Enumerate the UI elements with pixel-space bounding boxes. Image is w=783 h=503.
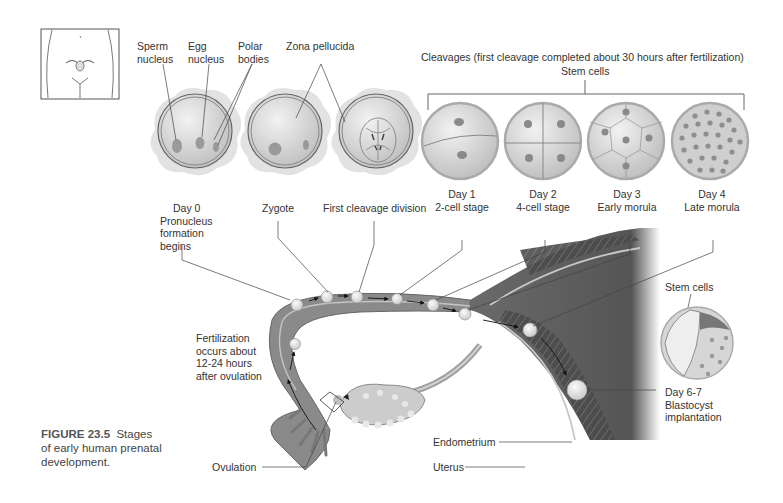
label-zona-pellucida: Zona pellucida — [286, 40, 354, 53]
cell-day2-4cell — [505, 103, 581, 179]
cell-first-cleavage — [331, 88, 422, 175]
cell-zygote — [240, 88, 331, 175]
label-day4: Day 4 Late morula — [677, 188, 747, 213]
label-day1: Day 1 2-cell stage — [430, 188, 494, 213]
figure-caption: FIGURE 23.5 Stages of early human prenat… — [41, 427, 162, 469]
label-egg-nucleus: Egg nucleus — [188, 40, 224, 65]
label-first-cleavage: First cleavage division — [323, 202, 426, 215]
label-day0: Day 0 Pronucleus formation begins — [160, 202, 213, 252]
cell-day1-2cell — [422, 103, 498, 179]
label-stem-cells-blastocyst: Stem cells — [665, 281, 713, 294]
label-sperm-nucleus: Sperm nucleus — [137, 40, 173, 65]
label-blastocyst: Day 6-7 Blastocyst implantation — [665, 386, 722, 424]
label-day3: Day 3 Early morula — [592, 188, 662, 213]
ovary — [320, 384, 425, 428]
label-day2: Day 2 4-cell stage — [511, 188, 575, 213]
label-stem-cells-top: Stem cells — [561, 65, 609, 78]
cell-day3-early-morula — [588, 103, 664, 179]
label-zygote: Zygote — [262, 202, 294, 215]
figure-number: FIGURE 23.5 — [41, 428, 110, 440]
inset-body-diagram — [41, 29, 119, 99]
label-uterus: Uterus — [433, 461, 464, 474]
uterus-tissue — [470, 228, 660, 440]
blastocyst-inset — [661, 307, 733, 379]
label-endometrium: Endometrium — [433, 436, 495, 449]
cell-day0-pronucleus — [150, 88, 241, 175]
label-cleavages: Cleavages (first cleavage completed abou… — [421, 51, 744, 64]
cell-day4-late-morula — [672, 103, 748, 179]
label-polar-bodies: Polar bodies — [238, 40, 269, 65]
label-fertilization: Fertilization occurs about 12-24 hours a… — [196, 332, 262, 382]
label-ovulation: Ovulation — [212, 461, 256, 474]
